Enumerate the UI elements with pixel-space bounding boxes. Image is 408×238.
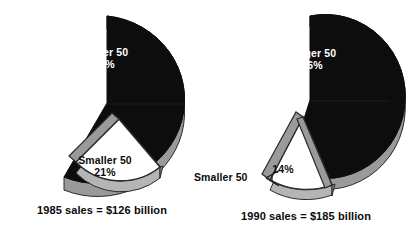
- smaller-slice-rim-cap-1990: [332, 184, 335, 196]
- slice-label-larger-percent-1985: 79%: [52, 58, 156, 70]
- slice-label-larger-name-1990: Larger 50: [288, 47, 336, 59]
- pie-chart-1990: [204, 0, 408, 238]
- slice-label-smaller-1985: Smaller 50 21%: [50, 154, 160, 178]
- pie-chart-figure: Larger 50 79% Smaller 50 21% 1985 sales …: [0, 0, 408, 238]
- slice-label-larger-1990: Larger 50 86%: [260, 47, 364, 71]
- slice-label-smaller-name-1985: Smaller 50: [78, 154, 132, 166]
- chart-panel-1985: Larger 50 79% Smaller 50 21% 1985 sales …: [0, 0, 204, 238]
- smaller-slice-rim-cap-1985: [160, 166, 163, 178]
- slice-label-smaller-name-1990: Smaller 50: [194, 171, 270, 183]
- chart-caption-1985: 1985 sales = $126 billion: [0, 204, 204, 216]
- chart-caption-1990: 1990 sales = $185 billion: [204, 210, 408, 222]
- chart-panel-1990: Larger 50 86% 14% Smaller 50 1990 sales …: [204, 0, 408, 238]
- slice-label-larger-percent-1990: 86%: [260, 59, 364, 71]
- slice-label-smaller-percent-1985: 21%: [50, 166, 160, 178]
- slice-label-larger-1985: Larger 50 79%: [52, 46, 156, 70]
- pie-chart-1985: [0, 0, 204, 238]
- slice-label-larger-name-1985: Larger 50: [80, 46, 128, 58]
